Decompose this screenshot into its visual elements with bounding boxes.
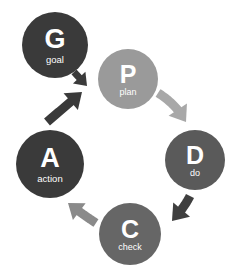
node-layer: G goal P plan D do C check A act: [16, 12, 225, 265]
node-goal[interactable]: G goal: [22, 12, 88, 78]
node-do-letter: D: [186, 141, 204, 169]
node-action-letter: A: [40, 143, 60, 173]
node-action[interactable]: A action: [16, 130, 84, 198]
arrow-plan-to-do: [158, 93, 187, 122]
pdca-diagram-canvas: G goal P plan D do C check A act: [0, 0, 246, 274]
node-check-letter: C: [121, 215, 139, 243]
node-goal-letter: G: [44, 24, 65, 54]
node-do[interactable]: D do: [165, 130, 225, 190]
pdca-cycle-diagram: G goal P plan D do C check A act: [0, 0, 246, 274]
arrowshaft-action-to-plan: [47, 98, 75, 122]
arrow-goal-to-plan: [73, 72, 87, 86]
node-do-caption: do: [190, 168, 200, 178]
node-goal-caption: goal: [46, 54, 64, 65]
node-plan[interactable]: P plan: [98, 49, 158, 109]
node-plan-caption: plan: [119, 87, 136, 97]
node-action-caption: action: [37, 173, 62, 184]
arrow-do-to-check: [172, 196, 190, 221]
arrow-action-to-plan: [47, 92, 82, 122]
arrow-check-to-action: [68, 203, 96, 223]
node-plan-letter: P: [120, 60, 137, 88]
node-check-caption: check: [118, 242, 142, 252]
node-check[interactable]: C check: [99, 203, 161, 265]
